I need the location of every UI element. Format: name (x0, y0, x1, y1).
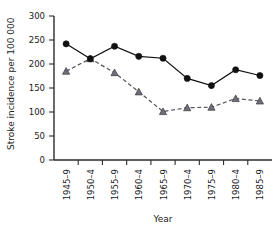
y-tick-label: 250 (29, 35, 45, 45)
data-point-circle (160, 55, 166, 61)
y-tick-label: 100 (29, 107, 45, 117)
x-tick-label: 1955–9 (110, 169, 120, 200)
y-tick-label: 150 (29, 83, 45, 93)
y-tick-label: 50 (34, 131, 45, 141)
y-axis-title: Stroke incidence per 100 000 (6, 17, 16, 150)
x-tick-label: 1975–9 (207, 169, 217, 200)
y-tick-label: 0 (40, 155, 45, 165)
y-tick-label: 300 (29, 11, 45, 21)
data-point-triangle (63, 68, 70, 75)
data-point-circle (208, 83, 214, 89)
x-tick-label: 1950–4 (86, 169, 96, 200)
data-point-circle (233, 67, 239, 73)
x-tick-label: 1960–4 (134, 169, 144, 200)
series-markers-triangles (63, 55, 264, 114)
chart-canvas: Stroke incidence per 100 000 300 250 200… (0, 0, 278, 230)
y-tick-marks (49, 16, 54, 160)
series-line-circles (66, 44, 260, 86)
series-line-triangles (66, 59, 260, 112)
data-point-circle (63, 41, 69, 47)
y-tick-labels: 300 250 200 150 100 50 0 (29, 11, 45, 165)
x-tick-label: 1965–9 (159, 169, 169, 200)
y-tick-label: 200 (29, 59, 45, 69)
data-point-triangle (184, 104, 191, 111)
data-point-circle (136, 53, 142, 59)
data-point-triangle (111, 69, 118, 76)
x-tick-marks (78, 160, 248, 165)
data-point-circle (111, 43, 117, 49)
data-point-circle (184, 75, 190, 81)
x-tick-label: 1970–4 (183, 169, 193, 200)
data-point-circle (257, 72, 263, 78)
x-axis-title: Year (152, 214, 172, 224)
data-point-circle (87, 56, 93, 62)
stroke-incidence-chart: Stroke incidence per 100 000 300 250 200… (0, 0, 278, 230)
series-markers-circles (63, 41, 263, 89)
x-tick-label: 1985–9 (255, 169, 265, 200)
x-tick-labels: 1945–91950–41955–91960–41965–91970–41975… (62, 169, 266, 200)
x-tick-label: 1980–4 (231, 169, 241, 200)
x-tick-label: 1945–9 (62, 169, 72, 200)
